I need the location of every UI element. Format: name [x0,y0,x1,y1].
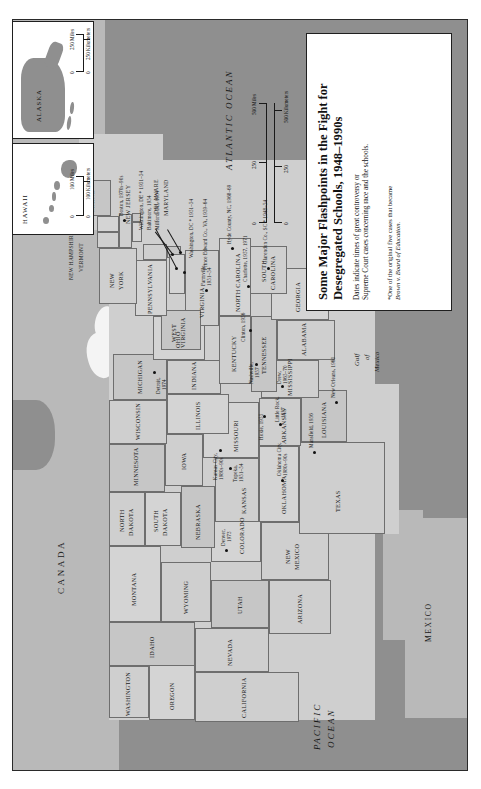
label-minnesota: MINNESOTA [133,447,139,486]
label-new-hampshire: NEW HAMPSHIRE [69,231,75,280]
title-card: Some Major Flashpoints in the Fight for … [306,33,452,311]
label-mexico: MEXICO [425,602,433,642]
label-georgia: GEORGIA [295,282,301,312]
label-louisiana: LOUISIANA [321,402,327,438]
flashpoint-label-boston: Boston, 1970s–90s [119,176,124,216]
alaska-scale-km-label: 250 Kilometers [85,28,91,60]
hawaii-scale-miles-zero: 0 [69,215,75,218]
label-arizona: ARIZONA [297,594,303,624]
hawaii-inset: HAWAII 0 100 Miles 0 100 Kilometers [12,143,94,235]
scale-km-label-500: 500 Kilometers [283,91,289,123]
flashpoint-label-okc-date: 1980s–90s [283,453,288,476]
label-pennsylvania: PENNSYLVANIA [147,264,153,314]
flashpoint-label-hoxie: Hoxie, 1955 [259,414,264,440]
scale-miles-label-0: 0 [251,222,257,225]
hawaii-scale-miles-tick-100 [76,176,84,177]
label-new-jersey: NEW JERSEY [125,185,131,224]
label-south-dakota-1: SOUTH [153,510,159,532]
alaska-scale-miles-tick-250 [76,34,84,35]
scale-miles-axis [266,103,267,223]
label-west-virginia-2: VIRGINIA [180,317,186,348]
flashpoint-label-clinton: Clinton, 1956 [241,313,246,342]
hawaii-island-molokai [52,192,56,201]
flashpoint-label-baltimore: Baltimore, 1954 [147,195,152,230]
label-canada: CANADA [57,540,66,594]
scale-km-label-0: 0 [283,222,289,225]
alaska-inset: ALASKA 0 250 Miles 0 250 Kilometers [12,21,94,139]
map-subtitle-line-1: Dates indicate times of great controvers… [353,174,361,300]
scale-km-axis [274,103,275,223]
label-nevada: NEVADA [227,639,233,666]
hawaii-island-maui [54,181,60,190]
map-footnote-line-2: Brown v. Board of Education. [394,222,401,300]
hawaii-island-kauai [43,217,49,224]
label-missouri: MISSOURI [233,420,239,452]
label-oregon: OREGON [169,682,175,710]
label-illinois: ILLINOIS [195,401,201,430]
label-indiana: INDIANA [191,361,197,390]
label-tennessee: TENNESSEE [261,337,267,374]
hawaii-inset-label: HAWAII [21,194,28,224]
label-idaho: IDAHO [149,637,155,658]
map-subtitle: Dates indicate times of great controvers… [353,44,372,300]
label-new-york-1: NEW [109,273,115,288]
label-pacific-ocean-line2: OCEAN [327,708,336,748]
label-pacific-ocean-line1: PACIFIC [313,703,322,750]
label-north-carolina: NORTH CAROLINA [235,253,241,312]
scale-km-tick-500 [274,110,282,111]
label-north-dakota-2: DAKOTA [128,509,134,536]
flashpoint-label-drew-date: 1965–70 [283,365,288,384]
map-landscape-canvas: CANADA MEXICO ATLANTIC OCEAN PACIFIC OCE… [0,0,481,789]
state-cell-new-jersey [143,244,167,260]
state-cell-vermont [97,232,119,248]
state-cell-new-hampshire [97,216,119,232]
flashpoint-label-hyde-county: Hyde County, NC, 1968–69 [227,185,232,244]
flashpoint-label-farmville-date: 1951–54 [207,267,212,286]
label-colorado: COLORADO [239,517,245,554]
label-maryland: MARYLAND [163,179,169,216]
flashpoint-label-detroit-date: 1974 [162,379,167,390]
flashpoint-label-denver-date: 1973 [227,531,232,542]
label-vermont: VERMONT [79,243,85,272]
label-gulf-line1: Gulf [353,353,360,366]
alaska-mainland [21,58,65,132]
label-california: CALIFORNIA [241,678,247,718]
flashpoint-label-washington-dc: Washington, DC * 1951–54 [189,199,194,258]
label-utah: UTAH [237,596,243,614]
flashpoint-label-milford: Milford, DE, 1954 [155,190,160,230]
map-title-line-2: Desegregated Schools, 1948–1990s [331,117,345,300]
flashpoint-label-prince-edward: Prince Edward Co., VA, 1959–64 [203,199,208,270]
label-wyoming: WYOMING [183,581,189,614]
label-texas: TEXAS [335,491,341,512]
flashpoint-label-mansfield: Mansfield, 1956 [309,413,314,448]
flashpoint-label-nashville-date: 1957 [255,367,260,378]
map-subtitle-line-2: Supreme Court cases concerning race and … [362,144,370,300]
label-alabama: ALABAMA [301,323,307,356]
hawaii-scale-km-zero: 0 [85,215,91,218]
alaska-scale-miles-label: 250 Miles [69,29,75,50]
scale-km-tick-250 [274,166,282,167]
hawaii-scale-km-axis [83,182,84,216]
label-kansas: KANSAS [241,487,247,514]
label-montana: MONTANA [131,573,137,606]
alaska-scale-km-zero: 0 [85,71,91,74]
label-kentucky: KENTUCKY [231,336,237,372]
map-footnote: *One of the original five cases that bec… [386,44,403,300]
flashpoint-label-wilmington: Wilmington, DE * 1951–54 [139,171,144,230]
label-atlantic-ocean: ATLANTIC OCEAN [225,70,234,170]
label-south-carolina-2: CAROLINA [270,256,276,290]
map-page: CANADA MEXICO ATLANTIC OCEAN PACIFIC OCE… [0,0,481,789]
scale-miles-label-250: 250 [251,161,257,169]
scale-miles-tick-0 [259,222,267,223]
label-north-dakota-1: NORTH [119,510,125,532]
label-washington: WASHINGTON [125,672,131,716]
scale-miles-tick-500 [259,103,267,104]
map-footnote-line-1: *One of the original five cases that bec… [386,186,393,300]
hawaii-scale-miles-label: 100 Miles [69,169,75,190]
label-nebraska: NEBRASKA [195,504,201,540]
alaska-inset-label: ALASKA [35,89,42,122]
hudson-bay-water [13,400,55,470]
hawaii-scale-km-label: 100 Kilometers [85,168,91,200]
label-gulf-line2: of [363,354,370,360]
scale-miles-tick-250 [259,162,267,163]
